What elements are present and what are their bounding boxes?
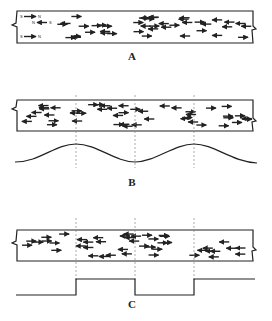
panel-a-legend: SN NS SN [20, 14, 52, 39]
svg-text:N: N [32, 20, 35, 25]
panel-c-dipoles [22, 234, 245, 257]
panel-c-label: C [122, 298, 142, 310]
svg-text:S: S [20, 14, 23, 19]
svg-text:S: S [49, 20, 52, 25]
panel-b-dipoles [22, 105, 252, 127]
panel-c-dashed-guides [76, 218, 194, 281]
panel-c-square-wave [16, 279, 255, 295]
magnetic-domains-diagram: SN NS SN [0, 0, 272, 321]
svg-text:S: S [20, 34, 23, 39]
panel-c-bar [12, 230, 256, 261]
panel-b-label: B [122, 176, 142, 188]
svg-text:N: N [38, 14, 41, 19]
panel-b-sine-wave [15, 144, 257, 163]
svg-text:N: N [38, 34, 41, 39]
panel-a-label: A [122, 50, 142, 62]
panel-a-bar [12, 11, 256, 43]
panel-a-dipoles [57, 16, 251, 37]
